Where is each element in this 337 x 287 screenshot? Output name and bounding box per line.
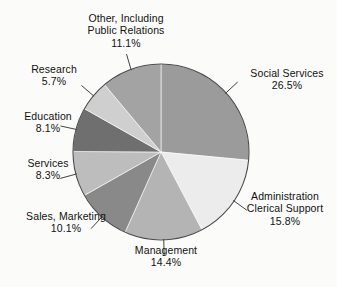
leader-line-social-services bbox=[225, 82, 237, 93]
leader-line-other-including-public-relations bbox=[126, 54, 131, 70]
slice-percent: 5.7% bbox=[8, 75, 100, 87]
slice-percent: 15.8% bbox=[233, 215, 337, 227]
slice-percent: 11.1% bbox=[63, 37, 189, 49]
slice-percent: 26.5% bbox=[238, 79, 336, 91]
slice-label-line1: Social Services bbox=[250, 67, 323, 79]
slice-label-line1: Administration bbox=[251, 190, 319, 202]
slice-label-management: Management 14.4% bbox=[112, 244, 220, 269]
slice-label-administration-clerical-support: Administration Clerical Support 15.8% bbox=[233, 190, 337, 227]
slice-percent: 8.1% bbox=[2, 122, 94, 134]
slice-label-other-including-public-relations: Other, Including Public Relations 11.1% bbox=[63, 12, 189, 49]
slice-percent: 8.3% bbox=[2, 169, 94, 181]
slice-label-line1: Education bbox=[24, 110, 72, 122]
slice-percent: 14.4% bbox=[112, 256, 220, 268]
slice-label-line1: Sales, Marketing bbox=[26, 210, 106, 222]
pie-chart-figure: Other, Including Public Relations 11.1% … bbox=[0, 0, 337, 287]
slice-label-line2: Clerical Support bbox=[247, 202, 323, 214]
slice-label-education: Education 8.1% bbox=[2, 110, 94, 135]
slice-label-line1: Research bbox=[31, 63, 77, 75]
slice-percent: 10.1% bbox=[8, 222, 124, 234]
pie-slice-social-services bbox=[161, 64, 249, 160]
slice-label-line1: Services bbox=[27, 157, 68, 169]
slice-label-services: Services 8.3% bbox=[2, 157, 94, 182]
slice-label-social-services: Social Services 26.5% bbox=[238, 67, 336, 92]
slice-label-research: Research 5.7% bbox=[8, 63, 100, 88]
slice-label-line1: Other, Including bbox=[88, 12, 163, 24]
slice-label-line2: Public Relations bbox=[88, 24, 165, 36]
slice-label-sales-marketing: Sales, Marketing 10.1% bbox=[8, 210, 124, 235]
slice-label-line1: Management bbox=[135, 244, 197, 256]
